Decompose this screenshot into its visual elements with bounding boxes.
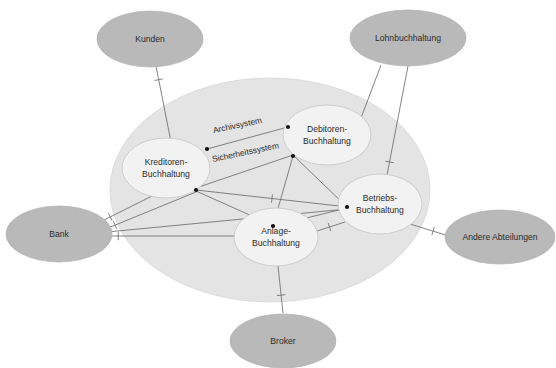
internal-node-anlage[interactable]: Anlage-Buchhaltung xyxy=(234,208,318,266)
external-node-broker[interactable]: Broker xyxy=(230,314,336,368)
node-label: Bank xyxy=(49,229,69,239)
node-label: Kunden xyxy=(135,34,165,44)
node-label-line1: Kreditoren- xyxy=(145,157,188,167)
node-label: Lohnbuchhaltung xyxy=(375,33,441,43)
node-label-line2: Buchhaltung xyxy=(252,238,300,248)
dot-debitoren-lower xyxy=(291,154,295,158)
dot-anlage-top xyxy=(271,224,275,228)
system-context-diagram: KundenLohnbuchhaltungBankAndere Abteilun… xyxy=(0,0,556,368)
node-label-line1: Debitoren- xyxy=(307,124,347,134)
dot-kreditoren-bottom xyxy=(194,188,198,192)
external-node-andere-abteilungen[interactable]: Andere Abteilungen xyxy=(445,210,555,264)
diagram-canvas: KundenLohnbuchhaltungBankAndere Abteilun… xyxy=(0,0,556,368)
external-node-lohnbuchhaltung[interactable]: Lohnbuchhaltung xyxy=(350,10,466,66)
node-label-line1: Anlage- xyxy=(261,226,291,236)
dot-debitoren-left xyxy=(286,125,290,129)
node-label: Andere Abteilungen xyxy=(462,232,537,242)
node-label-line2: Buchhaltung xyxy=(142,169,190,179)
node-ellipse[interactable] xyxy=(338,174,422,234)
node-ellipse[interactable] xyxy=(234,208,318,266)
dot-betriebs-left xyxy=(345,205,349,209)
node-label-line2: Buchhaltung xyxy=(356,205,404,215)
internal-node-debitoren[interactable]: Debitoren-Buchhaltung xyxy=(283,105,371,165)
node-label: Broker xyxy=(270,336,295,346)
dot-kreditoren-top xyxy=(205,147,209,151)
internal-node-betriebs[interactable]: Betriebs-Buchhaltung xyxy=(338,174,422,234)
node-ellipse[interactable] xyxy=(283,105,371,165)
external-node-bank[interactable]: Bank xyxy=(6,206,112,262)
external-node-kunden[interactable]: Kunden xyxy=(97,11,203,67)
node-label-line1: Betriebs- xyxy=(363,193,398,203)
node-label-line2: Buchhaltung xyxy=(303,136,351,146)
edge-tick-mark xyxy=(108,213,112,221)
